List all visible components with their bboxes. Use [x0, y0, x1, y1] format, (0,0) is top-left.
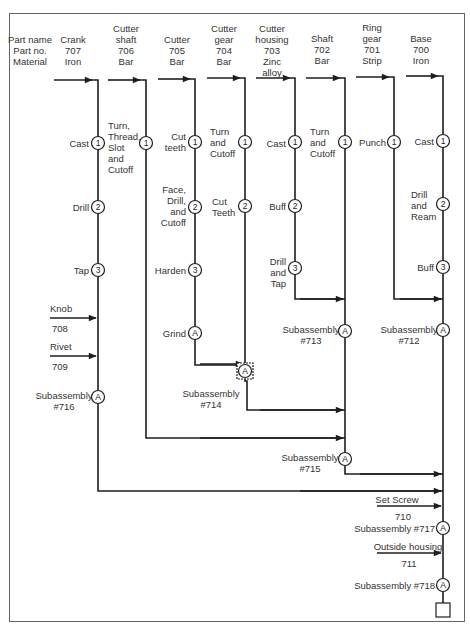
op-housing-buff: Buff [269, 201, 286, 212]
part-set-screw-no: 710 [395, 511, 411, 522]
op-cutter-face: Face, Drill, and Cutoff [161, 184, 186, 228]
header-cutter: Cutter 705 Bar [164, 34, 190, 67]
part-outside-housing-name: Outside housing [374, 541, 443, 552]
svg-text:A: A [342, 326, 348, 336]
op-base-drill-ream: Drill and Ream [411, 189, 436, 222]
part-outside-housing-no: 711 [401, 558, 416, 569]
subassembly-712: Subassembly #712 [380, 324, 437, 346]
op-cutter-harden: Harden [155, 265, 186, 276]
part-rivet-no: 709 [52, 361, 68, 372]
subassembly-718: Subassembly #718 [354, 580, 435, 591]
op-crank-drill: Drill [73, 202, 89, 213]
op-cutter-gear-cut-teeth: Cut Teeth [212, 196, 235, 218]
subassembly-717: Subassembly #717 [354, 523, 435, 534]
subassembly-714: Subassembly #714 [182, 388, 239, 410]
header-base: Base 700 Iron [410, 33, 432, 66]
subassembly-716: Subassembly #716 [35, 390, 92, 412]
op-cutter-shaft-turn: Turn, Thread, Slot and Cutoff [108, 120, 141, 175]
svg-text:A: A [440, 325, 446, 335]
svg-text:2: 2 [96, 202, 101, 212]
svg-text:3: 3 [193, 265, 198, 275]
part-knob-name: Knob [50, 303, 72, 314]
op-base-cast: Cast [414, 136, 434, 147]
svg-text:2: 2 [193, 202, 198, 212]
svg-text:A: A [242, 366, 248, 376]
svg-text:A: A [440, 580, 446, 590]
header-shaft: Shaft 702 Bar [311, 33, 333, 66]
op-cutter-grind: Grind [163, 328, 186, 339]
op-cutter-gear-turn: Turn and Cutoff [210, 126, 235, 159]
svg-text:A: A [95, 392, 101, 402]
svg-text:1: 1 [343, 137, 348, 147]
svg-text:3: 3 [293, 263, 298, 273]
svg-text:A: A [342, 454, 348, 464]
svg-text:1: 1 [243, 137, 248, 147]
svg-text:1: 1 [293, 137, 298, 147]
svg-text:3: 3 [441, 262, 446, 272]
svg-text:1: 1 [392, 137, 397, 147]
part-rivet-name: Rivet [50, 341, 72, 352]
op-ring-gear-punch: Punch [359, 137, 386, 148]
svg-text:A: A [192, 328, 198, 338]
header-ring-gear: Ring gear 701 Strip [362, 22, 382, 66]
header-cutter-housing: Cutter housing 703 Zinc alloy [255, 23, 288, 78]
svg-text:1: 1 [193, 137, 198, 147]
op-housing-drill-tap: Drill and Tap [270, 256, 286, 289]
header-crank: Crank 707 Iron [60, 34, 85, 67]
part-knob-no: 708 [52, 323, 68, 334]
subassembly-713: Subassembly #713 [282, 324, 339, 346]
svg-text:2: 2 [243, 201, 248, 211]
svg-text:2: 2 [441, 199, 446, 209]
op-shaft-turn: Turn and Cutoff [310, 126, 335, 159]
row-labels: Part name Part no. Material [8, 34, 52, 67]
svg-text:2: 2 [293, 201, 298, 211]
op-base-buff: Buff [417, 262, 434, 273]
svg-text:1: 1 [441, 136, 446, 146]
subassembly-715: Subassembly #715 [281, 452, 338, 474]
svg-text:A: A [440, 523, 446, 533]
header-cutter-gear: Cutter gear 704 Bar [211, 23, 237, 67]
assembly-chart: 123A 1 123A 12A 123 1A 1 123A A AA [0, 0, 470, 635]
svg-text:3: 3 [96, 265, 101, 275]
svg-text:1: 1 [144, 138, 149, 148]
header-cutter-shaft: Cutter shaft 706 Bar [113, 23, 139, 67]
part-set-screw-name: Set Screw [375, 494, 418, 505]
svg-text:1: 1 [96, 138, 101, 148]
op-crank-cast: Cast [69, 138, 89, 149]
op-crank-tap: Tap [74, 265, 89, 276]
op-cutter-cut-teeth: Cut teeth [165, 131, 186, 153]
op-housing-cast: Cast [266, 138, 286, 149]
